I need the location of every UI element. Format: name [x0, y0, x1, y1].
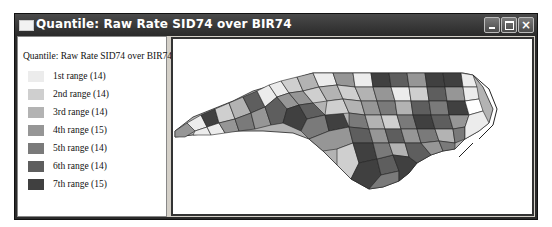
- legend-item-6[interactable]: 6th range (14): [28, 159, 107, 173]
- legend-title: Quantile: Raw Rate SID74 over BIR74: [23, 51, 172, 61]
- title-bar[interactable]: Quantile: Raw Rate SID74 over BIR74 ×: [15, 14, 537, 36]
- legend-swatch: [28, 107, 44, 118]
- legend-item-1[interactable]: 1st range (14): [28, 69, 106, 83]
- window-icon: [19, 20, 34, 31]
- window-client-area: Quantile: Raw Rate SID74 over BIR74 1st …: [17, 36, 535, 217]
- legend-label: 2nd range (14): [53, 89, 109, 99]
- maximize-button[interactable]: [501, 17, 517, 33]
- legend-item-7[interactable]: 7th range (15): [28, 177, 107, 191]
- legend-label: 6th range (14): [53, 161, 107, 171]
- legend-swatch: [28, 143, 44, 154]
- window-title: Quantile: Raw Rate SID74 over BIR74: [36, 17, 292, 31]
- north-carolina-county-map[interactable]: [173, 39, 535, 217]
- legend-label: 3rd range (14): [53, 107, 107, 117]
- legend-label: 7th range (15): [53, 179, 107, 189]
- minimize-button[interactable]: [484, 17, 500, 33]
- legend-swatch: [28, 89, 44, 100]
- map-canvas[interactable]: [171, 37, 534, 216]
- legend-swatch: [28, 161, 44, 172]
- legend-item-5[interactable]: 5th range (14): [28, 141, 107, 155]
- map-window: Quantile: Raw Rate SID74 over BIR74 × Qu…: [14, 13, 538, 220]
- close-button[interactable]: ×: [518, 17, 534, 33]
- legend-swatch: [28, 179, 44, 190]
- legend-item-2[interactable]: 2nd range (14): [28, 87, 109, 101]
- legend-swatch: [28, 71, 44, 82]
- legend-item-4[interactable]: 4th range (15): [28, 123, 107, 137]
- legend-label: 5th range (14): [53, 143, 107, 153]
- legend-swatch: [28, 125, 44, 136]
- legend-label: 4th range (15): [53, 125, 107, 135]
- window-controls: ×: [484, 17, 534, 33]
- legend-item-3[interactable]: 3rd range (14): [28, 105, 107, 119]
- legend-panel: Quantile: Raw Rate SID74 over BIR74 1st …: [17, 36, 167, 217]
- legend-label: 1st range (14): [53, 71, 106, 81]
